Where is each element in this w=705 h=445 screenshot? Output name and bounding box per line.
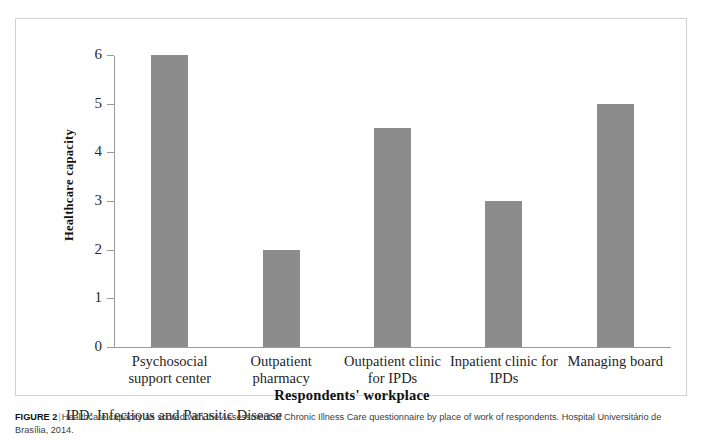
bar <box>374 128 411 347</box>
bar <box>263 250 300 347</box>
y-axis-tick-label: 6 <box>95 45 103 64</box>
y-axis-tick-label: 1 <box>95 288 103 307</box>
x-axis-tick-label: Inpatient clinic for IPDs <box>448 353 559 387</box>
y-axis-tick: 4 <box>107 152 114 153</box>
caption-text: Healthcare capacity as scored with the A… <box>15 412 661 435</box>
y-axis-tick: 6 <box>107 55 114 56</box>
y-axis-title: Healthcare capacity <box>62 129 82 241</box>
plot-area: 0123456 <box>114 56 671 348</box>
x-axis-line <box>114 347 671 348</box>
y-axis-tick-label: 5 <box>95 94 103 113</box>
bar <box>485 201 522 347</box>
y-axis-tick: 3 <box>107 201 114 202</box>
x-axis-tick-label: Outpatient pharmacy <box>225 353 336 387</box>
y-axis-tick-label: 3 <box>95 191 103 210</box>
y-axis-tick-label: 4 <box>95 142 103 161</box>
x-axis-tick-label: Outpatient clinic for IPDs <box>337 353 448 387</box>
x-axis-title: Respondents' workplace <box>16 387 688 404</box>
bar <box>151 55 188 347</box>
x-axis-tick-label: Psychosocial support center <box>114 353 225 387</box>
y-axis-line <box>114 56 115 348</box>
y-axis-tick: 0 <box>107 347 114 348</box>
figure-caption: FIGURE 2|Healthcare capacity as scored w… <box>15 411 691 437</box>
y-axis-tick: 5 <box>107 104 114 105</box>
y-axis-tick-label: 2 <box>95 240 103 259</box>
figure-frame: Healthcare capacity 0123456 Psychosocial… <box>15 18 687 396</box>
caption-label: FIGURE 2 <box>15 412 57 422</box>
x-axis-tick-label: Managing board <box>560 353 671 370</box>
y-axis-tick: 1 <box>107 298 114 299</box>
y-axis-tick-label: 0 <box>95 337 103 356</box>
bar <box>597 104 634 347</box>
y-axis-tick: 2 <box>107 250 114 251</box>
